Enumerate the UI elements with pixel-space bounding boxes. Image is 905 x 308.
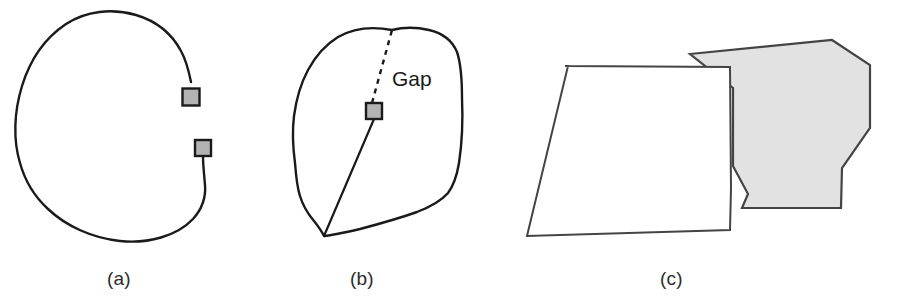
dashed-gap-line [372, 30, 392, 103]
panel-a-group [15, 11, 211, 241]
open-contour-path-a [15, 11, 205, 241]
left-unfilled-polygon [527, 66, 731, 236]
panel-caption-c: (c) [660, 268, 683, 290]
panel-caption-b: (b) [350, 268, 374, 290]
gap-text-label: Gap [392, 67, 432, 90]
endpoint-marker-lower [195, 140, 211, 156]
junction-marker-square [366, 103, 382, 119]
junction-marker [366, 103, 382, 119]
endpoint-marker-upper-square [183, 89, 200, 106]
panel-b-group: Gap [293, 28, 462, 236]
panel-c-group [527, 40, 870, 236]
endpoint-marker-upper [183, 89, 200, 106]
figure-container: Gap (a) (b) (c) [0, 0, 905, 308]
solid-chord-line [324, 119, 374, 236]
closed-contour-path-b [293, 28, 462, 236]
endpoint-marker-lower-square [195, 140, 211, 156]
figure-canvas: Gap [0, 0, 905, 308]
panel-caption-a: (a) [107, 268, 131, 290]
